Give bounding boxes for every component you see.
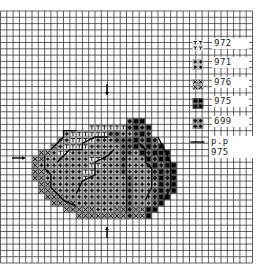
legend-971-symbol xyxy=(193,59,204,70)
legend-backstitch-975-label: p.p 975 xyxy=(209,136,253,158)
legend-971-label: 971 xyxy=(212,57,249,68)
legend-972-label: 972 xyxy=(212,38,249,49)
legend-975-label: 975 xyxy=(212,96,249,107)
legend-976-label: 976 xyxy=(212,77,249,88)
legend-699-symbol xyxy=(193,118,204,129)
legend-975-symbol xyxy=(193,98,204,109)
legend-699-label: 699 xyxy=(212,116,249,127)
legend-976-symbol xyxy=(193,79,204,90)
legend-972-symbol xyxy=(193,40,204,51)
